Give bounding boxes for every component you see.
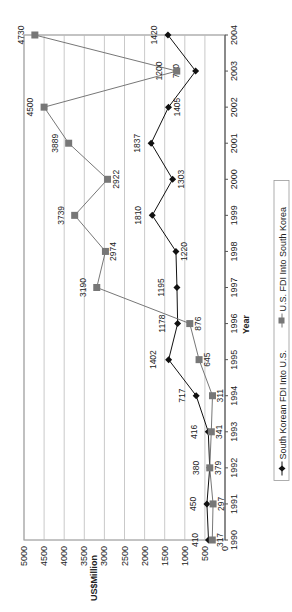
x-tick-label: 2003 [229, 61, 239, 81]
data-label: 1810 [133, 206, 143, 225]
data-label: 1402 [148, 350, 158, 369]
data-label: 3190 [78, 278, 88, 297]
y-tick-label: 1500 [160, 546, 170, 566]
y-tick-label: 4500 [39, 546, 49, 566]
data-point [41, 104, 48, 111]
y-tick-label: 2500 [120, 546, 130, 566]
x-axis-title: Year [241, 314, 251, 334]
data-label: 4730 [16, 25, 26, 44]
legend: South Korean FDI Into U.S.U.S. FDI Into … [274, 181, 289, 481]
data-label: 317 [215, 533, 225, 547]
data-point [31, 32, 38, 39]
x-tick-label: 1997 [229, 277, 239, 297]
y-axis-title: US$Million [89, 555, 99, 601]
x-tick-label: 1998 [229, 241, 239, 261]
data-point [71, 212, 78, 219]
data-label: 1420 [149, 25, 159, 44]
x-tick-label: 2000 [229, 169, 239, 189]
data-label: 1178 [157, 314, 167, 333]
data-label: 1405 [172, 97, 182, 116]
data-label: 2974 [108, 242, 118, 261]
data-label: 2922 [111, 170, 121, 189]
data-label: 3889 [50, 133, 60, 152]
data-label: 876 [193, 316, 203, 330]
data-label: 717 [177, 388, 187, 402]
y-tick-label: 2000 [140, 546, 150, 566]
data-label: 450 [188, 497, 198, 511]
data-label: 416 [189, 424, 199, 438]
data-label: 1303 [176, 170, 186, 189]
x-tick-label: 1999 [229, 205, 239, 225]
y-tick-label: 1000 [180, 546, 190, 566]
data-label: 1200 [154, 61, 164, 80]
y-tick-label: 500 [200, 546, 210, 561]
legend-entry: South Korean FDI Into U.S. [278, 350, 288, 460]
legend-entry: U.S. FDI Into South Korea [278, 207, 288, 312]
data-point [173, 68, 180, 75]
data-label: 645 [202, 352, 212, 366]
x-tick-label: 1995 [229, 350, 239, 370]
fdi-line-chart: 0500100015002000250030003500400045005000… [0, 0, 292, 612]
data-label: 1220 [179, 242, 189, 261]
x-tick-label: 2004 [229, 25, 239, 45]
x-tick-label: 1990 [229, 530, 239, 550]
data-label: 380 [191, 460, 201, 474]
x-tick-label: 1991 [229, 494, 239, 514]
x-tick-label: 2001 [229, 133, 239, 153]
x-tick-label: 1993 [229, 422, 239, 442]
data-label: 1195 [156, 278, 166, 297]
data-label: 379 [213, 460, 223, 474]
data-label: 4500 [25, 97, 35, 116]
x-tick-label: 1996 [229, 314, 239, 334]
data-label: 3739 [56, 206, 66, 225]
x-tick-label: 1992 [229, 458, 239, 478]
x-tick-label: 2002 [229, 97, 239, 117]
data-point [65, 140, 72, 147]
data-label: 311 [215, 389, 225, 403]
y-tick-label: 5000 [19, 546, 29, 566]
data-point [93, 284, 100, 291]
y-tick-label: 4000 [59, 546, 69, 566]
y-tick-label: 3000 [99, 546, 109, 566]
x-tick-label: 1994 [229, 386, 239, 406]
data-label: 297 [216, 497, 226, 511]
data-label: 410 [190, 533, 200, 547]
data-label: 341 [214, 424, 224, 438]
data-label: 1837 [132, 133, 142, 152]
